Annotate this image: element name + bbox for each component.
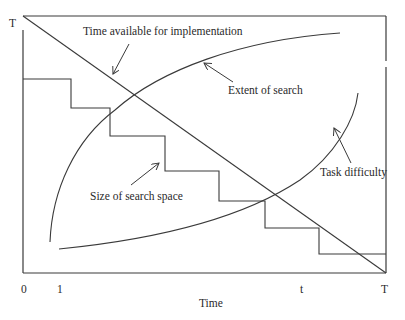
x-axis-title: Time <box>199 298 223 310</box>
x-tick-T: T <box>381 284 388 296</box>
time-available-line <box>23 16 386 273</box>
extent-of-search-arrow <box>204 63 233 82</box>
x-tick-1: 1 <box>57 284 63 296</box>
x-tick-0: 0 <box>21 284 27 296</box>
size-of-search-space-label: Size of search space <box>90 191 183 203</box>
task-difficulty-label: Task difficulty <box>320 167 387 179</box>
extent-of-search-label: Extent of search <box>228 85 303 97</box>
diagram-canvas <box>0 0 405 320</box>
x-tick-t: t <box>300 284 303 296</box>
time-available-arrow <box>113 44 129 74</box>
time-available-label: Time available for implementation <box>83 26 243 38</box>
task-difficulty-arrow <box>334 128 351 163</box>
y-axis-top-label: T <box>9 18 16 30</box>
size-of-search-space-arrow <box>131 163 159 185</box>
